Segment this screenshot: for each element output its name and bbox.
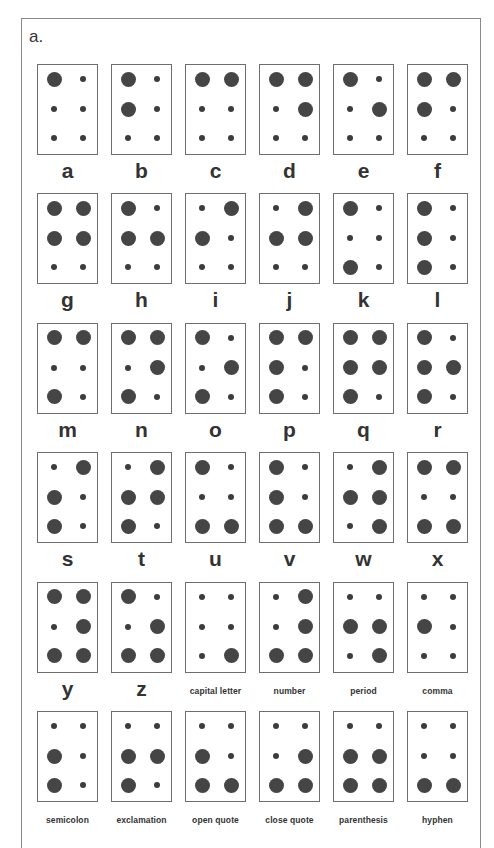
raised-dot-icon bbox=[298, 201, 313, 216]
flat-dot-icon bbox=[51, 723, 57, 729]
flat-dot-icon bbox=[228, 394, 234, 400]
braille-cell-box bbox=[407, 323, 468, 414]
flat-dot-icon bbox=[154, 264, 160, 270]
flat-dot-icon bbox=[273, 624, 279, 630]
raised-dot-icon bbox=[417, 201, 432, 216]
raised-dot-icon bbox=[150, 648, 165, 663]
raised-dot-icon bbox=[372, 648, 387, 663]
braille-cell: comma bbox=[407, 582, 468, 673]
braille-cell: l bbox=[407, 193, 468, 284]
braille-cell-box bbox=[185, 582, 246, 673]
braille-cell-label: r bbox=[397, 419, 478, 441]
flat-dot-icon bbox=[421, 594, 427, 600]
braille-cell-box bbox=[407, 64, 468, 155]
braille-cell: period bbox=[333, 582, 394, 673]
flat-dot-icon bbox=[125, 264, 131, 270]
flat-dot-icon bbox=[228, 235, 234, 241]
raised-dot-icon bbox=[343, 749, 358, 764]
braille-cell-box bbox=[111, 711, 172, 802]
flat-dot-icon bbox=[80, 264, 86, 270]
raised-dot-icon bbox=[47, 589, 62, 604]
raised-dot-icon bbox=[121, 389, 136, 404]
raised-dot-icon bbox=[47, 72, 62, 87]
flat-dot-icon bbox=[376, 594, 382, 600]
flat-dot-icon bbox=[421, 723, 427, 729]
raised-dot-icon bbox=[195, 231, 210, 246]
raised-dot-icon bbox=[446, 460, 461, 475]
raised-dot-icon bbox=[47, 231, 62, 246]
raised-dot-icon bbox=[76, 231, 91, 246]
braille-cell: x bbox=[407, 452, 468, 543]
braille-cell: e bbox=[333, 64, 394, 155]
braille-cell: c bbox=[185, 64, 246, 155]
flat-dot-icon bbox=[273, 594, 279, 600]
braille-cell-label: number bbox=[249, 686, 330, 696]
braille-cell: t bbox=[111, 452, 172, 543]
raised-dot-icon bbox=[446, 360, 461, 375]
braille-cell-label: exclamation bbox=[101, 815, 182, 825]
braille-cell-label: capital letter bbox=[175, 686, 256, 696]
flat-dot-icon bbox=[273, 264, 279, 270]
raised-dot-icon bbox=[372, 490, 387, 505]
braille-cell-box bbox=[185, 711, 246, 802]
flat-dot-icon bbox=[80, 394, 86, 400]
raised-dot-icon bbox=[150, 749, 165, 764]
raised-dot-icon bbox=[269, 72, 284, 87]
braille-cell: semicolon bbox=[37, 711, 98, 802]
flat-dot-icon bbox=[347, 464, 353, 470]
flat-dot-icon bbox=[51, 264, 57, 270]
raised-dot-icon bbox=[417, 519, 432, 534]
braille-cell-box bbox=[37, 193, 98, 284]
raised-dot-icon bbox=[269, 519, 284, 534]
flat-dot-icon bbox=[51, 624, 57, 630]
braille-cell: a bbox=[37, 64, 98, 155]
raised-dot-icon bbox=[269, 389, 284, 404]
flat-dot-icon bbox=[199, 365, 205, 371]
raised-dot-icon bbox=[417, 619, 432, 634]
flat-dot-icon bbox=[450, 494, 456, 500]
flat-dot-icon bbox=[51, 106, 57, 112]
flat-dot-icon bbox=[302, 264, 308, 270]
raised-dot-icon bbox=[417, 460, 432, 475]
braille-cell: v bbox=[259, 452, 320, 543]
braille-cell-label: c bbox=[175, 160, 256, 182]
braille-cell-label: n bbox=[101, 419, 182, 441]
braille-cell: s bbox=[37, 452, 98, 543]
flat-dot-icon bbox=[51, 365, 57, 371]
braille-cell-box bbox=[37, 711, 98, 802]
braille-cell-box bbox=[111, 193, 172, 284]
flat-dot-icon bbox=[154, 205, 160, 211]
raised-dot-icon bbox=[121, 330, 136, 345]
raised-dot-icon bbox=[121, 778, 136, 793]
braille-cell-box bbox=[259, 452, 320, 543]
braille-cell-label: hyphen bbox=[397, 815, 478, 825]
flat-dot-icon bbox=[421, 494, 427, 500]
braille-cell: g bbox=[37, 193, 98, 284]
raised-dot-icon bbox=[298, 231, 313, 246]
flat-dot-icon bbox=[80, 365, 86, 371]
raised-dot-icon bbox=[121, 648, 136, 663]
braille-cell-label: w bbox=[323, 548, 404, 570]
flat-dot-icon bbox=[376, 205, 382, 211]
raised-dot-icon bbox=[224, 648, 239, 663]
flat-dot-icon bbox=[154, 76, 160, 82]
raised-dot-icon bbox=[372, 619, 387, 634]
braille-cell: f bbox=[407, 64, 468, 155]
braille-cell-box bbox=[259, 64, 320, 155]
raised-dot-icon bbox=[47, 201, 62, 216]
raised-dot-icon bbox=[150, 330, 165, 345]
flat-dot-icon bbox=[347, 106, 353, 112]
flat-dot-icon bbox=[450, 264, 456, 270]
braille-cell-label: open quote bbox=[175, 815, 256, 825]
panel-label: a. bbox=[29, 27, 43, 47]
raised-dot-icon bbox=[150, 360, 165, 375]
raised-dot-icon bbox=[269, 648, 284, 663]
raised-dot-icon bbox=[298, 749, 313, 764]
braille-cell-box bbox=[185, 452, 246, 543]
braille-cell: j bbox=[259, 193, 320, 284]
raised-dot-icon bbox=[150, 490, 165, 505]
braille-cell-box bbox=[407, 452, 468, 543]
braille-cell-label: t bbox=[101, 548, 182, 570]
raised-dot-icon bbox=[121, 102, 136, 117]
flat-dot-icon bbox=[228, 624, 234, 630]
